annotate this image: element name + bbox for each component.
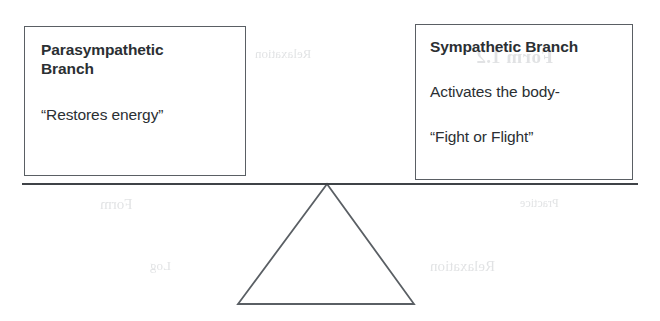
bleed-fragment-practice: Practice <box>520 196 559 211</box>
balance-beam <box>22 183 638 185</box>
sympathetic-title-line1: Sympathetic Branch <box>430 37 620 56</box>
bleed-fragment-log: Log <box>150 258 171 274</box>
spacer <box>430 101 620 127</box>
fulcrum-triangle <box>230 180 426 312</box>
bleed-fragment-form: Form <box>100 196 133 213</box>
parasympathetic-description: “Restores energy” <box>41 105 231 124</box>
spacer <box>41 78 231 105</box>
parasympathetic-branch-box: Parasympathetic Branch “Restores energy” <box>24 26 246 176</box>
parasympathetic-title-line2: Branch <box>41 59 231 78</box>
sympathetic-description-line1: Activates the body- <box>430 82 620 101</box>
spacer <box>430 56 620 82</box>
bleed-fragment-relaxation: Relaxation <box>255 46 311 62</box>
parasympathetic-title-line1: Parasympathetic <box>41 40 231 59</box>
sympathetic-branch-box: Sympathetic Branch Activates the body- “… <box>415 24 633 180</box>
sympathetic-description-line2: “Fight or Flight” <box>430 127 620 146</box>
bleed-fragment-relaxation-2: Relaxation <box>430 258 495 275</box>
scanned-page: Relaxation Form 1.2 Form Relaxation Log … <box>0 0 660 321</box>
